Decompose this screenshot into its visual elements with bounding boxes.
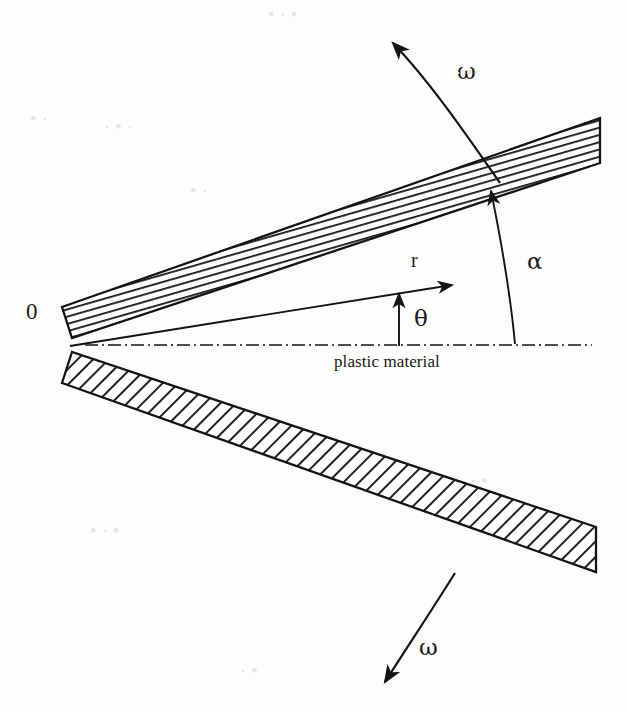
omega-bottom-label: ω: [419, 636, 438, 659]
lower-die: [62, 352, 596, 572]
figure-container: 0 r θ α ω ω plastic material • · •· •·• …: [0, 0, 627, 712]
lower-die-body: [62, 352, 596, 572]
diagram-canvas: [0, 0, 627, 712]
radius-label: r: [411, 250, 418, 270]
omega-bottom-arrow: [385, 573, 455, 682]
omega-top-label: ω: [457, 60, 476, 83]
alpha-label: α: [527, 250, 543, 273]
origin-label: 0: [26, 300, 38, 323]
alpha-arc: [491, 191, 515, 344]
plastic-material-label: plastic material: [334, 353, 440, 370]
theta-label: θ: [414, 307, 428, 330]
